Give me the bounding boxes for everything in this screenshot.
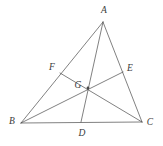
label-point-g: G <box>75 81 82 91</box>
label-point-b: B <box>9 117 15 127</box>
label-point-f: F <box>49 63 55 73</box>
side-AB <box>21 22 103 123</box>
label-point-c: C <box>147 118 153 128</box>
label-point-e: E <box>127 64 133 74</box>
label-point-a: A <box>101 6 107 16</box>
side-BC <box>21 122 142 123</box>
segments-group <box>21 22 142 123</box>
label-point-d: D <box>79 129 86 139</box>
points-group <box>87 87 90 90</box>
median-BE <box>21 72 123 123</box>
median-AD <box>81 22 103 122</box>
point-marker-g <box>87 87 90 90</box>
geometry-figure: ABCDEFG <box>0 0 163 146</box>
triangle-median-diagram <box>0 0 163 146</box>
